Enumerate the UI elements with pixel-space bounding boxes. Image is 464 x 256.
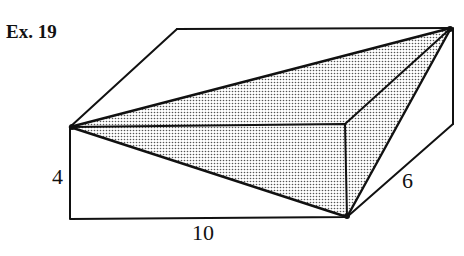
- depth-label: 6: [402, 168, 413, 194]
- vertex-left: [69, 124, 75, 130]
- top-back-edge: [177, 28, 451, 29]
- vertex-bottom: [344, 213, 350, 219]
- height-label: 4: [52, 164, 63, 190]
- length-label: 10: [192, 220, 214, 246]
- vertex-apex: [447, 26, 453, 32]
- box-diagram: [0, 0, 464, 256]
- exercise-label: Ex. 19: [6, 21, 57, 43]
